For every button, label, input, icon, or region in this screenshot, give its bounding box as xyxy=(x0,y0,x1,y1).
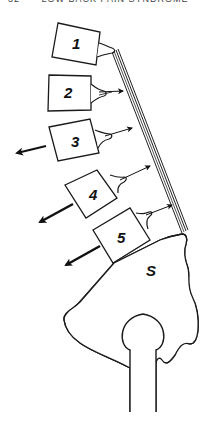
sacrum-label: S xyxy=(146,262,156,279)
vertebra-3: 3 xyxy=(17,119,132,161)
vertebra-2: 2 xyxy=(48,75,123,111)
vertebra-1: 1 xyxy=(52,23,115,65)
vertebra-label-1: 1 xyxy=(72,35,80,52)
vertebra-label-4: 4 xyxy=(88,186,98,203)
ligament-band xyxy=(112,49,188,233)
vertebra-label-5: 5 xyxy=(117,229,126,246)
vertebra-label-3: 3 xyxy=(71,133,80,150)
spine-diagram: 1 2 3 4 5 S xyxy=(0,0,210,429)
vertebra-label-2: 2 xyxy=(63,84,73,101)
